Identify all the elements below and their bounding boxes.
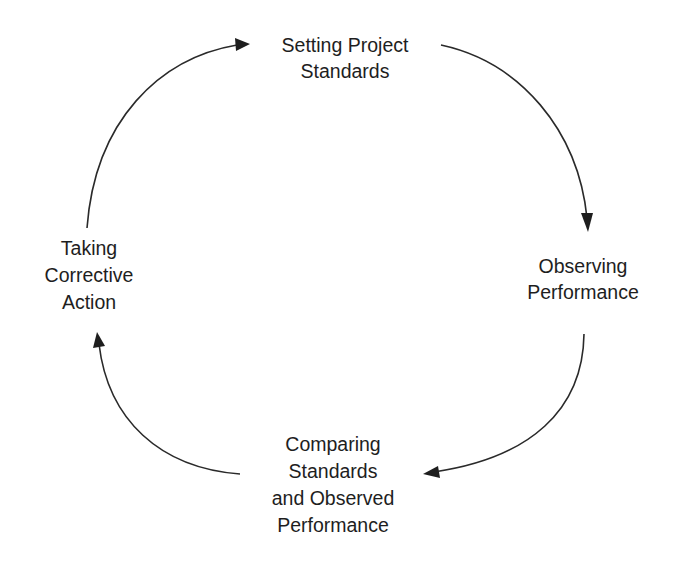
arc-line [87, 45, 237, 228]
node-label-line: Standards [289, 460, 378, 482]
node-setting-project-standards: Setting Project Standards [282, 34, 409, 82]
node-label-line: Corrective [45, 264, 134, 286]
arrowhead-right-icon [235, 38, 250, 51]
edge-comparing-to-corrective [93, 332, 240, 474]
node-label-line: Performance [277, 514, 389, 536]
edge-corrective-to-setting [87, 38, 250, 228]
node-label-line: Setting Project [282, 34, 409, 56]
edge-setting-to-observing [441, 45, 593, 232]
node-label-line: Action [62, 291, 116, 313]
edge-observing-to-comparing [423, 334, 584, 478]
node-observing-performance: Observing Performance [527, 255, 639, 303]
arc-line [434, 334, 584, 472]
control-cycle-diagram: Setting Project Standards Observing Perf… [0, 0, 677, 573]
arc-line [99, 344, 240, 474]
node-taking-corrective-action: Taking Corrective Action [45, 237, 134, 313]
arrowhead-left-icon [423, 466, 440, 478]
node-label-line: Observing [539, 255, 628, 277]
node-label-line: Performance [527, 281, 639, 303]
node-label-line: and Observed [272, 487, 395, 509]
arrowhead-up-icon [93, 332, 105, 348]
node-label-line: Comparing [285, 433, 380, 455]
arrowhead-down-icon [581, 213, 593, 232]
node-label-line: Standards [301, 60, 390, 82]
node-comparing-standards: Comparing Standards and Observed Perform… [272, 433, 395, 536]
node-label-line: Taking [61, 237, 117, 259]
arc-line [441, 45, 587, 218]
